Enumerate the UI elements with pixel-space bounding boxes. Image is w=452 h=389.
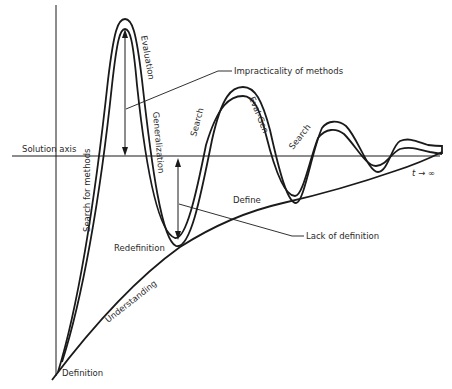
search-label-2: Search	[287, 122, 313, 151]
define-label: Define	[233, 195, 261, 205]
search-label-1: Search	[188, 107, 205, 138]
problem-solving-diagram: Solution axis t → ∞ Impracticality of me…	[0, 0, 452, 389]
time-label: t → ∞	[412, 168, 435, 178]
lack-of-definition-arrowhead-top	[175, 158, 181, 167]
eval-gen-label: Eval-Gen	[247, 95, 271, 135]
redefinition-label: Redefinition	[114, 243, 165, 253]
impracticality-arrowhead-bottom	[122, 147, 128, 156]
lack-of-definition-label: Lack of definition	[306, 231, 379, 241]
search-for-methods-label: Search for methods	[82, 148, 92, 232]
understanding-curve	[52, 152, 442, 380]
definition-label: Definition	[62, 368, 103, 378]
understanding-label: Understanding	[103, 278, 159, 324]
solution-axis-label: Solution axis	[22, 144, 77, 154]
impracticality-label: Impracticality of methods	[234, 66, 344, 76]
